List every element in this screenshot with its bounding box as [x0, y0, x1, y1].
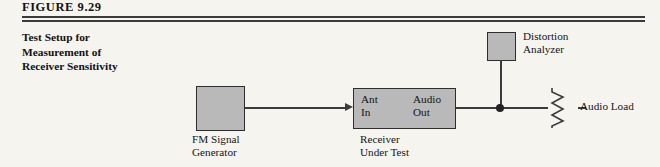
fm-signal-generator-block	[196, 86, 245, 131]
da-label-line-1: Distortion	[523, 30, 568, 43]
receiver-audio-out-port-label: Audio Out	[413, 93, 441, 119]
rx-label-line-2: Under Test	[360, 146, 409, 159]
arrowhead-icon	[345, 103, 353, 111]
distortion-analyzer-label: Distortion Analyzer	[523, 30, 568, 56]
ant-line-1: Ant	[361, 93, 378, 106]
rx-label-line-1: Receiver	[360, 133, 409, 146]
figure-page: FIGURE 9.29 Test Setup for Measurement o…	[0, 0, 660, 167]
wire-generator-to-receiver	[245, 107, 346, 109]
distortion-analyzer-block	[487, 32, 516, 61]
audio-load-label: Audio Load	[580, 100, 634, 113]
wire-analyzer-to-junction	[500, 60, 502, 108]
block-diagram: FM Signal Generator Ant In Audio Out Rec…	[0, 0, 660, 167]
receiver-under-test-label: Receiver Under Test	[360, 133, 409, 159]
audio-line-2: Out	[413, 106, 441, 119]
fm-label-line-2: Generator	[192, 146, 240, 159]
ant-line-2: In	[361, 106, 378, 119]
junction-dot-icon	[496, 104, 504, 112]
audio-line-1: Audio	[413, 93, 441, 106]
receiver-ant-in-port-label: Ant In	[361, 93, 378, 119]
resistor-icon	[546, 88, 580, 128]
fm-label-line-1: FM Signal	[192, 133, 240, 146]
fm-signal-generator-label: FM Signal Generator	[192, 133, 240, 159]
da-label-line-2: Analyzer	[523, 43, 568, 56]
